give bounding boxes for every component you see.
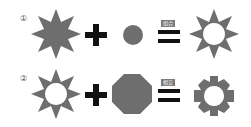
plus-icon [85,84,107,106]
octagon-icon [112,74,152,114]
intersect-label: 相交 [161,79,175,86]
step-marker-1: ① [20,14,27,23]
equals-icon [158,30,180,44]
step-marker-2: ② [20,74,27,83]
gear-icon [194,76,234,116]
equals-icon [158,89,180,103]
nine-point-star-icon [30,8,82,60]
sun-ring-icon [30,68,82,120]
combine-label: 组合 [161,20,175,27]
plus-icon [85,24,107,46]
circle-icon [122,24,144,46]
sun-ring-icon [188,8,240,60]
